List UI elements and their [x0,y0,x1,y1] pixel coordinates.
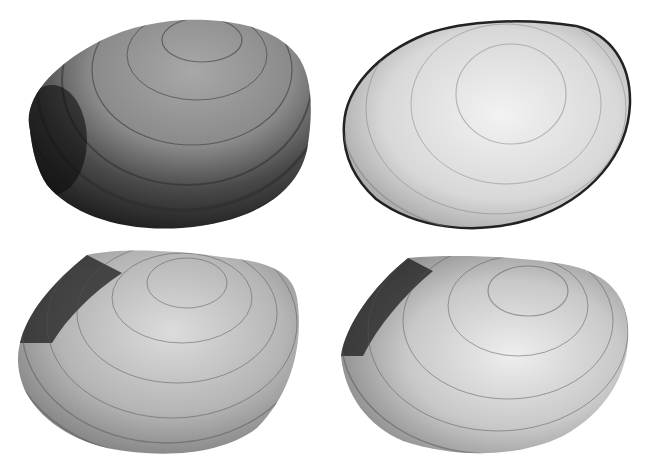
shell-image [336,14,636,234]
shell-image [12,243,307,461]
shell-photo-grid [0,0,646,467]
shell-photo-top-right [336,14,636,234]
shell-photo-bottom-left [12,243,307,461]
shell-image [12,10,317,235]
shell-photo-bottom-right [333,246,633,461]
shell-image [333,246,633,461]
shell-photo-top-left [12,10,317,235]
